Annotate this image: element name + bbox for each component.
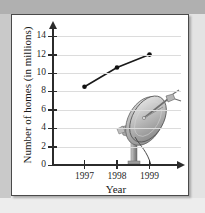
y-axis-tick-label: 12 [30, 50, 46, 60]
y-gridline [53, 147, 181, 148]
y-gridline [53, 110, 181, 111]
satellite-dish-icon [111, 85, 183, 165]
y-axis-tick-label: 6 [30, 105, 46, 115]
data-point-marker [115, 65, 120, 70]
x-axis-tick-label: 1999 [133, 172, 167, 182]
y-gridline [53, 55, 181, 56]
y-gridline [53, 73, 181, 74]
y-axis-tick [48, 91, 57, 93]
x-axis-arrow-icon [177, 161, 185, 169]
y-axis-tick [48, 109, 57, 111]
x-axis-tick [149, 160, 151, 169]
page-right-band [189, 14, 205, 198]
y-axis-tick [48, 165, 57, 167]
y-axis-arrow-icon [49, 21, 57, 29]
page-bottom-band [0, 196, 205, 213]
line-graph-panel: Year Number of homes (in millions) 02468… [11, 14, 189, 196]
y-axis-tick-label: 4 [30, 123, 46, 133]
y-axis-tick [48, 54, 57, 56]
y-axis-tick-label: 8 [30, 86, 46, 96]
x-axis-tick-label: 1998 [100, 172, 134, 182]
y-gridline [53, 36, 181, 37]
y-axis-tick-label: 0 [30, 160, 46, 170]
data-point-marker [82, 85, 87, 90]
x-axis-title: Year [52, 183, 180, 195]
x-axis-tick-label: 1997 [68, 172, 102, 182]
series-line [85, 55, 150, 87]
y-gridline [53, 91, 181, 92]
y-axis-tick-label: 14 [30, 31, 46, 41]
page-left-band [0, 14, 11, 198]
y-axis-tick [48, 73, 57, 75]
x-axis-tick [84, 160, 86, 169]
page-top-band [0, 0, 205, 14]
y-axis-tick [48, 128, 57, 130]
y-gridline [53, 128, 181, 129]
plot-area: Year Number of homes (in millions) 02468… [12, 15, 188, 195]
y-axis-tick-label: 10 [30, 68, 46, 78]
y-axis-tick-label: 2 [30, 142, 46, 152]
x-axis-tick [116, 160, 118, 169]
figure-root: Year Number of homes (in millions) 02468… [0, 0, 205, 213]
y-axis-tick [48, 146, 57, 148]
y-axis-tick [48, 36, 57, 38]
